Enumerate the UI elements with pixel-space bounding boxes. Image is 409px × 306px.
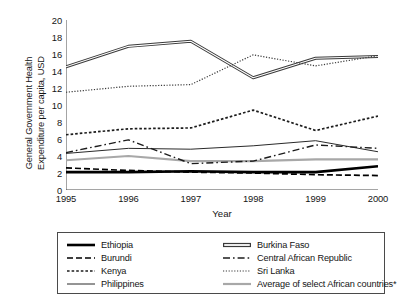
legend-label: Ethiopia xyxy=(101,240,133,250)
plot-area xyxy=(66,20,378,190)
x-tick-label: 2000 xyxy=(368,193,388,204)
legend-swatch-icon xyxy=(67,279,95,289)
x-axis-title: Year xyxy=(66,208,378,219)
x-axis-tick-labels: 199519961997199819992000 xyxy=(66,193,378,207)
plot-svg xyxy=(66,20,378,190)
legend-item[interactable]: Average of select African countries* xyxy=(223,278,379,291)
x-tick-label: 1996 xyxy=(118,193,138,204)
legend-swatch-icon xyxy=(223,279,251,289)
legend-label: Philippines xyxy=(101,279,144,289)
legend-label: Average of select African countries* xyxy=(257,279,396,289)
legend-label: Kenya xyxy=(101,266,126,276)
chart-figure: General Government Health Expenditure pe… xyxy=(0,0,409,306)
legend-item[interactable]: Burkina Faso xyxy=(223,238,379,251)
y-tick-label: 8 xyxy=(57,117,62,128)
y-axis-tick-labels: 20181614121086420 xyxy=(36,20,62,190)
y-tick-label: 14 xyxy=(52,66,62,77)
y-tick-label: 16 xyxy=(52,49,62,60)
legend-item[interactable]: Kenya xyxy=(67,264,223,277)
legend-swatch-icon xyxy=(223,266,251,276)
legend-item[interactable]: Central African Republic xyxy=(223,251,379,264)
legend-swatch-icon xyxy=(223,253,251,263)
x-tick-label: 1999 xyxy=(305,193,325,204)
y-tick-label: 4 xyxy=(57,151,62,162)
legend-item[interactable]: Burundi xyxy=(67,251,223,264)
legend-label: Burundi xyxy=(101,253,132,263)
legend-item[interactable]: Philippines xyxy=(67,278,223,291)
x-tick-label: 1998 xyxy=(243,193,263,204)
legend-swatch-icon xyxy=(223,240,251,250)
x-tick-label: 1995 xyxy=(56,193,76,204)
y-tick-label: 10 xyxy=(52,100,62,111)
legend-label: Burkina Faso xyxy=(257,240,309,250)
legend-swatch-icon xyxy=(67,266,95,276)
x-tick-label: 1997 xyxy=(181,193,201,204)
y-tick-label: 12 xyxy=(52,83,62,94)
y-tick-label: 18 xyxy=(52,32,62,43)
chart-legend: EthiopiaBurkina FasoBurundiCentral Afric… xyxy=(57,232,385,294)
legend-label: Sri Lanka xyxy=(257,266,294,276)
legend-item[interactable]: Sri Lanka xyxy=(223,264,379,277)
y-tick-label: 2 xyxy=(57,168,62,179)
legend-item[interactable]: Ethiopia xyxy=(67,238,223,251)
y-tick-label: 20 xyxy=(52,15,62,26)
legend-label: Central African Republic xyxy=(257,253,352,263)
y-tick-label: 6 xyxy=(57,134,62,145)
y-axis-title-line-1: General Government Health xyxy=(24,56,36,170)
legend-swatch-icon xyxy=(67,253,95,263)
legend-swatch-icon xyxy=(67,240,95,250)
